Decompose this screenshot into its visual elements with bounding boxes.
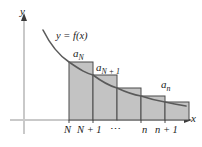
curve-equation-label: y = f(x) [56,31,88,42]
x-tick-label-n: n [142,125,147,136]
rectangle-group [69,62,189,120]
bar-label-a-N-plus-1-sub: N + 1 [102,67,121,76]
bar-a-N-plus-1 [93,75,117,120]
x-tick-label-N-plus-1: N + 1 [77,125,102,136]
bar-label-a-N: aN [73,48,84,59]
y-axis-label: y [20,6,25,17]
x-axis-label: x [191,113,196,124]
x-tick-label-N: N [64,125,71,136]
bar-label-a-N-plus-1: aN + 1 [96,62,120,73]
x-tick-label-n-plus-1: n + 1 [155,125,178,136]
bar-label-a-N-sub: N [79,53,84,62]
bar-label-a-N-base: a [73,47,79,59]
bar-label-a-N-plus-1-base: a [96,61,102,73]
bar-label-a-n-base: a [161,78,167,90]
x-tick-label-ellipsis: ⋯ [110,125,122,136]
bar-label-a-n-sub: n [167,84,171,93]
bar-label-a-n: an [161,79,170,90]
integral-test-figure: y x y = f(x) aN aN + 1 an N N + 1 ⋯ n n … [0,0,202,147]
